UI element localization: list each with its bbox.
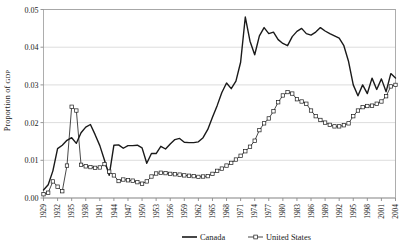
series-marker bbox=[225, 164, 228, 167]
series-marker bbox=[305, 102, 308, 105]
series-marker bbox=[84, 165, 87, 168]
y-tick-label: 0.04 bbox=[25, 43, 39, 52]
series-marker bbox=[366, 104, 369, 107]
series-marker bbox=[295, 98, 298, 101]
series-marker bbox=[248, 145, 251, 148]
series-marker bbox=[356, 109, 359, 112]
x-tick-label: 1938 bbox=[81, 204, 90, 219]
x-tick-label: 1980 bbox=[278, 204, 287, 219]
series-marker bbox=[272, 110, 275, 113]
series-marker bbox=[178, 173, 181, 176]
series-marker bbox=[131, 179, 134, 182]
series-marker bbox=[281, 94, 284, 97]
data-series-group bbox=[42, 17, 397, 196]
x-tick-label: 1965 bbox=[208, 204, 217, 219]
x-tick-label: 1950 bbox=[138, 204, 147, 219]
chart-legend: CanadaUnited States bbox=[182, 233, 311, 242]
series-marker bbox=[347, 122, 350, 125]
x-tick-label: 1974 bbox=[250, 204, 259, 219]
x-tick-label: 1956 bbox=[166, 204, 175, 219]
series-marker bbox=[108, 170, 111, 173]
series-marker bbox=[215, 169, 218, 172]
series-marker bbox=[56, 185, 59, 188]
series-marker bbox=[300, 100, 303, 103]
y-tick-label: 0.05 bbox=[25, 6, 39, 15]
series-marker bbox=[389, 85, 392, 88]
x-tick-label: 1998 bbox=[363, 204, 372, 219]
series-marker bbox=[46, 191, 49, 194]
series-marker bbox=[319, 118, 322, 121]
series-marker bbox=[173, 173, 176, 176]
x-tick-label: 1935 bbox=[67, 204, 76, 219]
series-marker bbox=[291, 92, 294, 95]
series-marker bbox=[375, 102, 378, 105]
series-marker bbox=[258, 128, 261, 131]
x-axis-ticks-group: 1929193219351938194119441947195019531956… bbox=[39, 198, 400, 219]
series-marker bbox=[70, 105, 73, 108]
series-marker bbox=[234, 158, 237, 161]
series-marker bbox=[201, 175, 204, 178]
series-marker bbox=[187, 174, 190, 177]
legend-label: United States bbox=[266, 233, 311, 242]
x-tick-label: 1971 bbox=[236, 204, 245, 219]
series-marker bbox=[154, 172, 157, 175]
series-marker bbox=[380, 100, 383, 103]
series-marker bbox=[361, 105, 364, 108]
legend-item-canada[interactable]: Canada bbox=[182, 233, 225, 242]
series-marker bbox=[51, 180, 54, 183]
series-marker bbox=[112, 174, 115, 177]
series-marker bbox=[42, 193, 45, 196]
series-marker bbox=[192, 174, 195, 177]
x-tick-label: 1959 bbox=[180, 204, 189, 219]
series-marker bbox=[65, 164, 68, 167]
series-line bbox=[44, 85, 396, 194]
x-tick-label: 1941 bbox=[95, 204, 104, 219]
x-tick-label: 1983 bbox=[293, 204, 302, 219]
series-marker bbox=[79, 163, 82, 166]
series-marker bbox=[244, 150, 247, 153]
legend-marker-sample bbox=[254, 235, 258, 239]
x-tick-label: 2004 bbox=[391, 204, 400, 219]
series-marker bbox=[183, 174, 186, 177]
series-marker bbox=[145, 180, 148, 183]
series-marker bbox=[61, 190, 64, 193]
series-marker bbox=[328, 123, 331, 126]
series-marker bbox=[286, 90, 289, 93]
series-marker bbox=[342, 124, 345, 127]
series-marker bbox=[75, 109, 78, 112]
series-marker bbox=[230, 161, 233, 164]
x-tick-label: 1944 bbox=[110, 204, 119, 219]
x-tick-label: 1995 bbox=[349, 204, 358, 219]
series-marker bbox=[150, 175, 153, 178]
y-tick-label: 0.01 bbox=[25, 156, 39, 165]
x-tick-label: 1986 bbox=[307, 204, 316, 219]
series-marker bbox=[122, 178, 125, 181]
series-marker bbox=[164, 171, 167, 174]
x-tick-label: 1977 bbox=[264, 204, 273, 219]
legend-item-united-states[interactable]: United States bbox=[248, 233, 311, 242]
x-tick-label: 1992 bbox=[335, 204, 344, 219]
series-marker bbox=[253, 139, 256, 142]
x-tick-label: 1947 bbox=[124, 204, 133, 219]
series-marker bbox=[323, 121, 326, 124]
y-tick-label: 0.00 bbox=[25, 194, 39, 203]
x-tick-label: 1932 bbox=[53, 204, 62, 219]
y-axis-ticks-group: 0.000.010.020.030.040.05 bbox=[25, 6, 44, 204]
y-tick-label: 0.02 bbox=[25, 119, 39, 128]
series-marker bbox=[140, 182, 143, 185]
series-marker bbox=[384, 95, 387, 98]
series-line bbox=[44, 17, 396, 190]
series-marker bbox=[337, 125, 340, 128]
legend-label: Canada bbox=[200, 233, 225, 242]
series-marker bbox=[333, 125, 336, 128]
series-marker bbox=[197, 175, 200, 178]
series-marker bbox=[276, 101, 279, 104]
series-marker bbox=[126, 179, 129, 182]
series-marker bbox=[98, 166, 101, 169]
series-marker bbox=[352, 114, 355, 117]
series-marker bbox=[103, 162, 106, 165]
series-marker bbox=[211, 172, 214, 175]
y-tick-label: 0.03 bbox=[25, 81, 39, 90]
series-marker bbox=[267, 117, 270, 120]
chart-canvas: 0.000.010.020.030.040.05 192919321935193… bbox=[0, 0, 406, 249]
